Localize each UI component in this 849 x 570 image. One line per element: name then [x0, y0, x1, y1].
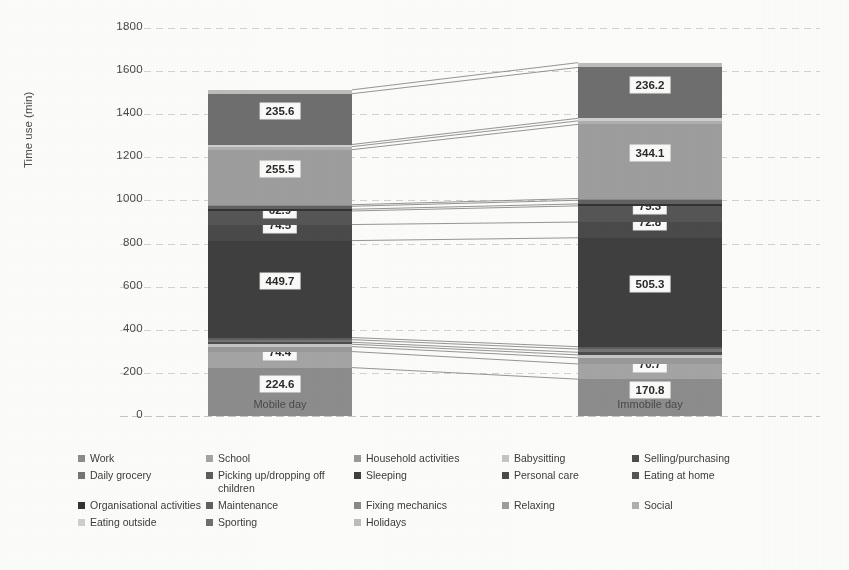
legend-label: Organisational activities: [90, 499, 201, 512]
y-axis-tick-label: 800: [83, 236, 143, 248]
connector-line: [352, 238, 578, 241]
y-axis-title: Time use (min): [22, 38, 34, 168]
connector-line: [352, 121, 578, 147]
legend-item[interactable]: Picking up/dropping off children: [206, 469, 354, 495]
legend-label: Social: [644, 499, 673, 512]
legend-label: Selling/purchasing: [644, 452, 730, 465]
legend-swatch-icon: [354, 519, 361, 526]
connector-line: [352, 199, 578, 205]
legend-label: Sleeping: [366, 469, 407, 482]
legend-row: Eating outsideSportingHolidays: [78, 516, 778, 529]
connector-line: [352, 200, 578, 206]
legend-item[interactable]: Relaxing: [502, 499, 632, 512]
x-axis-label: Immobile day: [578, 398, 722, 410]
y-axis-tick-label: 1000: [83, 192, 143, 204]
y-axis-tick-label: 200: [83, 365, 143, 377]
y-axis-tick-label: 0: [83, 408, 143, 420]
legend-label: School: [218, 452, 250, 465]
legend-swatch-icon: [78, 472, 85, 479]
y-axis-tick-label: 1600: [83, 63, 143, 75]
legend-label: Fixing mechanics: [366, 499, 447, 512]
legend-item[interactable]: Work: [78, 452, 206, 465]
legend-item[interactable]: Fixing mechanics: [354, 499, 502, 512]
legend-swatch-icon: [632, 502, 639, 509]
stacked-bar-chart: Time use (min) 224.674.4449.774.562.9255…: [0, 0, 849, 448]
legend-label: Household activities: [366, 452, 459, 465]
legend-label: Sporting: [218, 516, 257, 529]
legend-item[interactable]: Sporting: [206, 516, 354, 529]
legend-swatch-icon: [502, 455, 509, 462]
legend-label: Eating outside: [90, 516, 157, 529]
legend-swatch-icon: [78, 502, 85, 509]
legend-item[interactable]: Maintenance: [206, 499, 354, 512]
y-axis-tick-label: 1200: [83, 149, 143, 161]
legend-swatch-icon: [78, 455, 85, 462]
gridline: [120, 416, 820, 417]
legend-swatch-icon: [354, 455, 361, 462]
legend-swatch-icon: [632, 455, 639, 462]
legend-label: Personal care: [514, 469, 579, 482]
legend-label: Daily grocery: [90, 469, 151, 482]
legend-item[interactable]: Babysitting: [502, 452, 632, 465]
legend-swatch-icon: [206, 472, 213, 479]
legend-swatch-icon: [502, 472, 509, 479]
legend-item[interactable]: Eating outside: [78, 516, 206, 529]
legend-item[interactable]: Personal care: [502, 469, 632, 495]
legend-item[interactable]: Selling/purchasing: [632, 452, 778, 465]
y-axis-tick-label: 1400: [83, 106, 143, 118]
legend-row: Organisational activitiesMaintenanceFixi…: [78, 499, 778, 512]
connector-line: [352, 67, 578, 93]
connector-line: [352, 368, 578, 380]
connector-line: [352, 222, 578, 224]
connector-line: [352, 347, 578, 358]
legend-swatch-icon: [206, 455, 213, 462]
legend-swatch-icon: [78, 519, 85, 526]
plot-area: 224.674.4449.774.562.9255.5235.6170.870.…: [120, 28, 820, 416]
legend-label: Relaxing: [514, 499, 555, 512]
y-axis-tick-label: 1800: [83, 20, 143, 32]
legend-item[interactable]: Eating at home: [632, 469, 778, 495]
legend-label: Picking up/dropping off children: [218, 469, 350, 495]
legend-label: Babysitting: [514, 452, 565, 465]
connector-line: [352, 118, 578, 144]
legend-swatch-icon: [632, 472, 639, 479]
legend-swatch-icon: [354, 502, 361, 509]
connector-line: [352, 63, 578, 90]
chart-legend: WorkSchoolHousehold activitiesBabysittin…: [78, 452, 778, 533]
legend-swatch-icon: [502, 502, 509, 509]
legend-label: Eating at home: [644, 469, 715, 482]
legend-item[interactable]: Household activities: [354, 452, 502, 465]
legend-item[interactable]: Holidays: [354, 516, 502, 529]
legend-swatch-icon: [206, 519, 213, 526]
y-axis-tick-label: 600: [83, 279, 143, 291]
legend-label: Maintenance: [218, 499, 278, 512]
legend-item[interactable]: Sleeping: [354, 469, 502, 495]
connector-line: [352, 338, 578, 347]
legend-swatch-icon: [206, 502, 213, 509]
legend-row: Daily groceryPicking up/dropping off chi…: [78, 469, 778, 495]
legend-item[interactable]: School: [206, 452, 354, 465]
legend-label: Work: [90, 452, 114, 465]
legend-item[interactable]: Social: [632, 499, 778, 512]
legend-row: WorkSchoolHousehold activitiesBabysittin…: [78, 452, 778, 465]
connector-lines: [120, 28, 820, 416]
connector-line: [352, 124, 578, 149]
legend-label: Holidays: [366, 516, 406, 529]
legend-item[interactable]: Organisational activities: [78, 499, 206, 512]
y-axis-tick-label: 400: [83, 322, 143, 334]
x-axis-label: Mobile day: [208, 398, 352, 410]
legend-item[interactable]: Daily grocery: [78, 469, 206, 495]
legend-swatch-icon: [354, 472, 361, 479]
